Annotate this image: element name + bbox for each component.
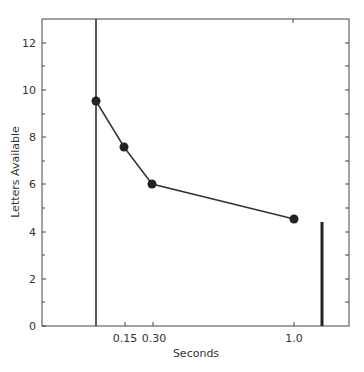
y-tick-6: 6 [29, 178, 36, 191]
chart: 0 2 4 6 8 10 12 0.15 0.30 1.0 Seconds Le… [0, 0, 364, 372]
data-point [290, 215, 299, 224]
y-tick-10: 10 [22, 84, 36, 97]
x-tick-1-0: 1.0 [285, 332, 303, 345]
y-axis-ticks [42, 43, 46, 326]
x-axis-ticks [125, 19, 294, 326]
plot-frame [42, 19, 349, 326]
y-axis-label: Letters Available [9, 126, 22, 218]
x-axis-label: Seconds [173, 347, 219, 360]
right-axis-ticks [345, 43, 349, 302]
series-markers [92, 97, 299, 224]
y-tick-2: 2 [29, 273, 36, 286]
series-line [96, 101, 294, 219]
x-tick-0-15: 0.15 [113, 332, 138, 345]
data-point [148, 180, 157, 189]
y-tick-4: 4 [29, 226, 36, 239]
x-tick-labels: 0.15 0.30 1.0 [113, 332, 303, 345]
data-point [120, 143, 129, 152]
y-tick-0: 0 [29, 320, 36, 333]
x-tick-0-30: 0.30 [142, 332, 167, 345]
y-tick-12: 12 [22, 37, 36, 50]
data-point [92, 97, 101, 106]
y-tick-8: 8 [29, 131, 36, 144]
y-tick-labels: 0 2 4 6 8 10 12 [22, 37, 36, 333]
